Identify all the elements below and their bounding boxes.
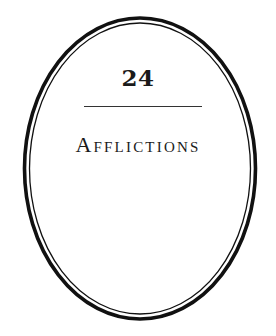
chapter-number: 24 <box>0 64 276 92</box>
chapter-title: Afflictions <box>0 131 276 159</box>
divider-rule <box>84 106 202 107</box>
oval-frame <box>0 0 276 336</box>
